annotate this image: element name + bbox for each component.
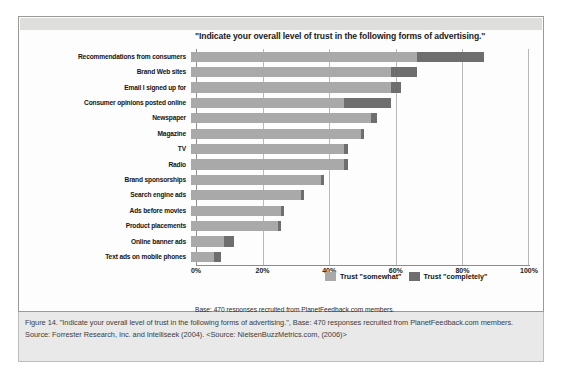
legend-item-somewhat: Trust "somewhat" [325, 272, 402, 281]
bar-segment-somewhat [191, 129, 361, 139]
bar-segment-completely [321, 175, 324, 185]
chart-row: Email I signed up for [29, 80, 539, 95]
bar-segment-completely [278, 221, 281, 231]
stacked-bar [191, 252, 221, 262]
bar-segment-completely [344, 144, 347, 154]
stacked-bar [191, 175, 324, 185]
bar-track [191, 249, 539, 264]
category-label: Brand Web sites [29, 68, 191, 76]
x-tick-label: 0% [191, 267, 201, 274]
stacked-bar [191, 98, 391, 108]
category-label: Search engine ads [29, 191, 191, 199]
chart-row: Online banner ads [29, 234, 539, 249]
chart-row: Consumer opinions posted online [29, 95, 539, 110]
category-label: Consumer opinions posted online [29, 99, 191, 107]
chart-row: TV [29, 141, 539, 156]
bar-segment-completely [344, 98, 391, 108]
stacked-bar [191, 144, 348, 154]
stacked-bar [191, 159, 348, 169]
bar-track [191, 64, 539, 79]
category-label: Newspaper [29, 114, 191, 122]
category-label: Recommendations from consumers [29, 53, 191, 61]
bar-segment-completely [391, 82, 401, 92]
chart-bar-rows: Recommendations from consumersBrand Web … [29, 49, 539, 265]
category-label: TV [29, 145, 191, 153]
chart-row: Recommendations from consumers [29, 49, 539, 64]
legend-label-completely: Trust "completely" [424, 272, 488, 281]
stacked-bar [191, 221, 281, 231]
bar-track [191, 49, 539, 64]
bar-track [191, 172, 539, 187]
stacked-bar [191, 129, 364, 139]
bar-segment-completely [214, 252, 221, 262]
figure-frame: "Indicate your overall level of trust in… [18, 16, 544, 312]
bar-segment-somewhat [191, 175, 321, 185]
chart-row: Newspaper [29, 111, 539, 126]
chart-row: Brand Web sites [29, 64, 539, 79]
legend-swatch-completely [409, 272, 420, 281]
stacked-bar [191, 82, 401, 92]
chart-row: Product placements [29, 218, 539, 233]
category-label: Brand sponsorships [29, 176, 191, 184]
bar-track [191, 80, 539, 95]
stacked-bar [191, 190, 304, 200]
chart-row: Ads before movies [29, 203, 539, 218]
bar-track [191, 111, 539, 126]
chart-row: Text ads on mobile phones [29, 249, 539, 264]
chart-legend: Trust "somewhat" Trust "completely" [325, 272, 487, 281]
bar-track [191, 234, 539, 249]
bar-segment-completely [391, 67, 418, 77]
stacked-bar [191, 113, 377, 123]
bar-segment-somewhat [191, 206, 281, 216]
category-label: Ads before movies [29, 207, 191, 215]
bar-track [191, 141, 539, 156]
chart-title: "Indicate your overall level of trust in… [195, 31, 539, 42]
category-label: Online banner ads [29, 238, 191, 246]
stacked-bar [191, 206, 284, 216]
bar-track [191, 218, 539, 233]
bar-segment-completely [361, 129, 364, 139]
bar-segment-completely [281, 206, 284, 216]
bar-segment-somewhat [191, 67, 391, 77]
bar-track [191, 126, 539, 141]
x-tick-label: 20% [256, 267, 270, 274]
category-label: Email I signed up for [29, 84, 191, 92]
bar-track [191, 188, 539, 203]
bar-track [191, 203, 539, 218]
bar-segment-completely [344, 159, 347, 169]
chart-row: Magazine [29, 126, 539, 141]
chart-row: Brand sponsorships [29, 172, 539, 187]
category-label: Product placements [29, 222, 191, 230]
bar-segment-somewhat [191, 98, 344, 108]
x-tick-label: 100% [520, 267, 538, 274]
chart-plot-area: Recommendations from consumersBrand Web … [29, 49, 539, 279]
bar-segment-somewhat [191, 144, 344, 154]
category-label: Radio [29, 161, 191, 169]
bar-segment-completely [417, 52, 484, 62]
bar-segment-somewhat [191, 236, 224, 246]
figure-caption: Figure 14. "Indicate your overall level … [18, 312, 544, 362]
x-axis-line [196, 265, 530, 266]
bar-segment-completely [301, 190, 304, 200]
stacked-bar [191, 67, 417, 77]
bar-segment-somewhat [191, 82, 391, 92]
bar-track [191, 95, 539, 110]
legend-label-somewhat: Trust "somewhat" [340, 272, 402, 281]
legend-swatch-somewhat [325, 272, 336, 281]
bar-track [191, 157, 539, 172]
chart-row: Radio [29, 157, 539, 172]
bar-segment-completely [224, 236, 234, 246]
bar-segment-somewhat [191, 190, 301, 200]
scanned-page: "Indicate your overall level of trust in… [0, 0, 564, 378]
stacked-bar [191, 236, 234, 246]
bar-segment-completely [371, 113, 378, 123]
category-label: Magazine [29, 130, 191, 138]
bar-segment-somewhat [191, 52, 417, 62]
bar-segment-somewhat [191, 159, 344, 169]
bar-segment-somewhat [191, 221, 278, 231]
category-label: Text ads on mobile phones [29, 253, 191, 261]
stacked-bar [191, 52, 484, 62]
bar-segment-somewhat [191, 252, 214, 262]
legend-item-completely: Trust "completely" [409, 272, 488, 281]
bar-segment-somewhat [191, 113, 371, 123]
